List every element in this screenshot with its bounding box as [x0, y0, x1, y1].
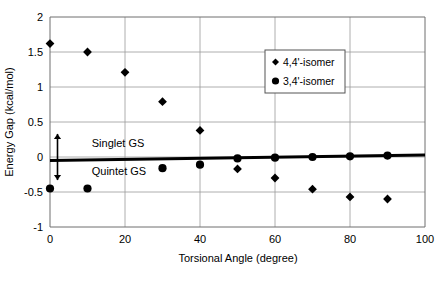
- x-tick-label: 40: [194, 233, 206, 245]
- y-tick-label: 1: [37, 81, 43, 93]
- energy-gap-scatter-chart: -1-0.500.511.52 020406080100 Singlet GSQ…: [0, 0, 440, 284]
- data-point-3-4-isomer: [383, 152, 391, 160]
- y-tick-label: -0.5: [24, 186, 43, 198]
- data-point-3-4-isomer: [158, 164, 166, 172]
- x-tick-label: 20: [119, 233, 131, 245]
- x-tick-label: 0: [47, 233, 53, 245]
- legend-label-3-4-isomer: 3,4'-isomer: [283, 75, 335, 87]
- y-tick-label: 2: [37, 11, 43, 23]
- y-axis-title: Energy Gap (kcal/mol): [3, 67, 15, 176]
- data-point-3-4-isomer: [346, 152, 354, 160]
- x-tick-label: 80: [344, 233, 356, 245]
- x-tick-label: 100: [416, 233, 434, 245]
- y-tick-label: 0: [37, 151, 43, 163]
- data-point-3-4-isomer: [271, 154, 279, 162]
- x-axis-title: Torsional Angle (degree): [178, 252, 297, 264]
- data-point-3-4-isomer: [83, 184, 91, 192]
- legend-label-4-4-isomer: 4,4'-isomer: [283, 56, 335, 68]
- x-tick-label: 60: [269, 233, 281, 245]
- singlet-gs-label: Singlet GS: [92, 137, 145, 149]
- data-point-3-4-isomer: [233, 154, 241, 162]
- y-tick-label: -1: [33, 221, 43, 233]
- y-tick-label: 0.5: [28, 116, 43, 128]
- legend-circle-icon: [272, 77, 279, 84]
- data-point-3-4-isomer: [196, 161, 204, 169]
- chart-legend: 4,4'-isomer 3,4'-isomer: [265, 50, 345, 93]
- data-point-3-4-isomer: [46, 184, 54, 192]
- y-tick-label: 1.5: [28, 46, 43, 58]
- chart-container: -1-0.500.511.52 020406080100 Singlet GSQ…: [0, 0, 440, 284]
- chart-background: [0, 0, 440, 284]
- quintet-gs-label: Quintet GS: [92, 165, 146, 177]
- data-point-3-4-isomer: [308, 153, 316, 161]
